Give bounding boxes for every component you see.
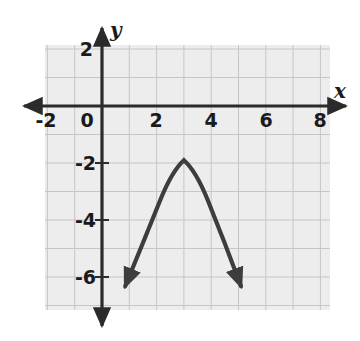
graph-canvas: -2 0 2 4 6 8 2 -2 -4 -6 y x <box>0 0 360 341</box>
y-tick-label-neg4: -4 <box>75 209 96 231</box>
x-tick-label-6: 6 <box>259 109 272 131</box>
y-tick-label-2: 2 <box>80 38 93 60</box>
y-tick-label-neg6: -6 <box>75 266 96 288</box>
y-tick-label-neg2: -2 <box>75 152 96 174</box>
y-axis-label: y <box>109 18 123 42</box>
x-tick-label-4: 4 <box>204 109 217 131</box>
x-tick-label-0: 0 <box>80 109 93 131</box>
x-tick-label-2: 2 <box>149 109 162 131</box>
x-tick-label-neg2: -2 <box>35 109 56 131</box>
x-axis-label: x <box>333 79 347 103</box>
parabola-figure: -2 0 2 4 6 8 2 -2 -4 -6 y x <box>0 0 360 341</box>
x-tick-label-8: 8 <box>313 109 326 131</box>
